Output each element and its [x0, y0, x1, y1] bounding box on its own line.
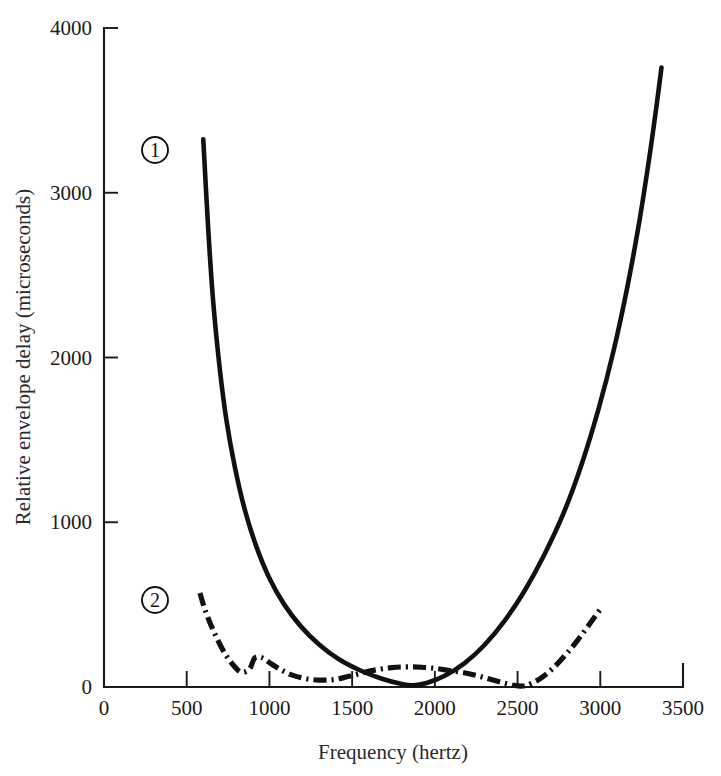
x-tick-label: 1000 — [248, 696, 290, 720]
series-marker-2: 2 — [142, 587, 168, 613]
y-axis-tick-labels: 01000200030004000 — [50, 16, 92, 699]
axis-frame — [104, 28, 683, 687]
chart-canvas: 01000200030004000 0500100015002000250030… — [0, 0, 721, 776]
y-tick-label: 2000 — [50, 346, 92, 370]
y-tick-label: 0 — [82, 675, 93, 699]
x-tick-label: 500 — [171, 696, 203, 720]
y-tick-label: 3000 — [50, 181, 92, 205]
y-axis-title: Relative envelope delay (microseconds) — [11, 189, 35, 525]
series-2-label: 2 — [150, 589, 160, 611]
series-line-1 — [203, 68, 661, 686]
x-tick-label: 1500 — [331, 696, 373, 720]
series-line-2 — [200, 593, 604, 686]
y-axis-ticks — [104, 28, 118, 522]
x-tick-label: 2500 — [497, 696, 539, 720]
y-tick-label: 4000 — [50, 16, 92, 40]
x-axis-tick-labels: 0500100015002000250030003500 — [99, 696, 704, 720]
figure-chart: 01000200030004000 0500100015002000250030… — [0, 0, 721, 776]
series-marker-1: 1 — [142, 137, 168, 163]
x-axis-title: Frequency (hertz) — [318, 740, 468, 764]
x-tick-label: 3500 — [662, 696, 704, 720]
x-tick-label: 0 — [99, 696, 110, 720]
y-tick-label: 1000 — [50, 510, 92, 534]
x-tick-label: 3000 — [579, 696, 621, 720]
x-tick-label: 2000 — [414, 696, 456, 720]
series-1-label: 1 — [150, 139, 160, 161]
